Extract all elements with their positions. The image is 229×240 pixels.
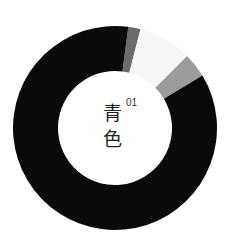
donut-chart <box>0 0 229 240</box>
